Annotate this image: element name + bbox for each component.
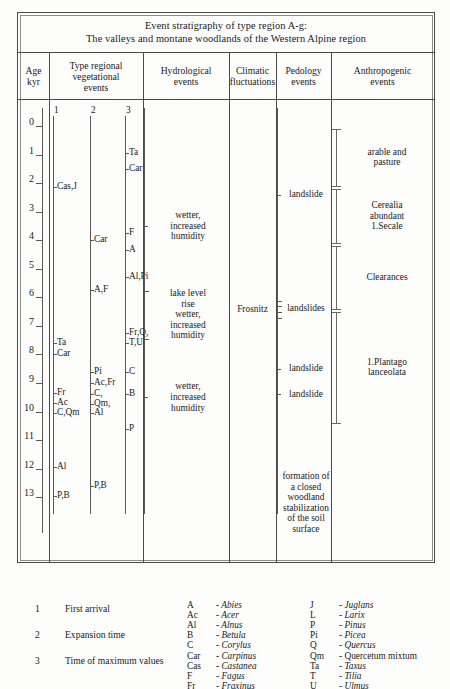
legend-abbrev-name-Q: - Quercus bbox=[339, 640, 376, 650]
vegetation-event-label: C bbox=[129, 367, 135, 377]
age-tick bbox=[36, 469, 42, 470]
column-header-vegetation-line-3: events bbox=[70, 82, 123, 93]
legend-abbrev-code-P: P bbox=[310, 620, 315, 630]
age-tick-label-1: 1 bbox=[18, 146, 34, 156]
age-tick-label-8: 8 bbox=[18, 345, 34, 355]
vegetation-event-label: B bbox=[129, 389, 135, 399]
legend: 1First arrival2Expansion time3Time of ma… bbox=[17, 600, 435, 686]
legend-abbrev-code-A: A bbox=[187, 600, 194, 610]
table-body: 012345678910111213123Cas,JTaCarFrAcC,QmA… bbox=[18, 100, 434, 562]
age-tick bbox=[36, 240, 42, 241]
column-header-anthropogenic-line-2: events bbox=[354, 76, 412, 87]
anthropogenic-event-label: Cerealiaabundant1.Secale bbox=[344, 200, 430, 232]
legend-rank-text-2: Expansion time bbox=[65, 629, 125, 640]
pedology-event-text-line: landslides bbox=[281, 303, 331, 314]
anthropogenic-event-text-line: lanceolata bbox=[344, 367, 430, 378]
age-tick-label-3: 3 bbox=[18, 203, 34, 213]
legend-abbrev-name-F: - Fagus bbox=[216, 671, 245, 681]
anthropogenic-span-cap bbox=[332, 186, 341, 187]
age-tick-label-4: 4 bbox=[18, 231, 34, 241]
legend-abbrev-name-Cas: - Castanea bbox=[216, 661, 257, 671]
legend-abbrev-name-Ac: - Acer bbox=[216, 610, 239, 620]
column-header-climatic: Climaticfluctuations bbox=[229, 53, 276, 99]
column-header-row: AgekyrType regionalvegetationaleventsHyd… bbox=[18, 53, 434, 100]
age-tick-label-0: 0 bbox=[18, 117, 34, 127]
column-header-age-line-2: kyr bbox=[26, 76, 42, 87]
vegetation-event-label: Ac,Fr bbox=[94, 378, 115, 388]
vegetation-event-label: T,U bbox=[129, 338, 143, 348]
vegetation-subcolumn-label-2: 2 bbox=[91, 106, 96, 115]
anthropogenic-event-text-line: Clearances bbox=[344, 272, 430, 283]
legend-rank-number-3: 3 bbox=[35, 655, 40, 666]
age-tick-label-5: 5 bbox=[18, 260, 34, 270]
hydrological-event-text-line: wetter, bbox=[149, 210, 227, 221]
vegetation-subaxis-2 bbox=[90, 116, 91, 514]
vegetation-event-label: Car bbox=[129, 164, 142, 174]
header-divider bbox=[49, 53, 50, 99]
title-line-1: Event stratigraphy of type region A-g: bbox=[145, 20, 307, 33]
legend-abbrev-code-U: U bbox=[310, 681, 317, 689]
anthropogenic-span-cap bbox=[332, 423, 341, 424]
age-tick bbox=[36, 269, 42, 270]
vegetation-event-label: C,Qm bbox=[57, 408, 79, 418]
age-tick bbox=[36, 326, 42, 327]
age-tick bbox=[36, 383, 42, 384]
vegetation-event-label: Ta bbox=[129, 148, 138, 158]
anthropogenic-event-text-line: 1.Secale bbox=[344, 221, 430, 232]
column-divider bbox=[331, 100, 332, 562]
legend-abbrev-code-Ta: Ta bbox=[310, 661, 319, 671]
hydrological-event-text-line: humidity bbox=[149, 403, 227, 414]
column-header-anthropogenic-line-1: Anthropogenic bbox=[354, 65, 412, 76]
column-header-pedology-line-2: events bbox=[285, 76, 321, 87]
climatic-event-label: Frosnitz bbox=[229, 304, 276, 315]
vegetation-event-label: A bbox=[129, 245, 136, 255]
pedology-event-text-line: landslide bbox=[281, 189, 331, 200]
anthropogenic-span-cap bbox=[332, 243, 341, 244]
header-divider bbox=[143, 53, 144, 99]
hydrological-event-label: wetter,increasedhumidity bbox=[149, 381, 227, 413]
age-axis-line bbox=[42, 108, 43, 533]
vegetation-subaxis-1 bbox=[53, 116, 54, 514]
legend-abbrev-code-Cas: Cas bbox=[187, 661, 201, 671]
legend-abbrev-name-P: - Pinus bbox=[339, 620, 366, 630]
vegetation-event-label: Car bbox=[94, 235, 107, 245]
legend-abbrev-name-Car: - Carpinus bbox=[216, 651, 256, 661]
pedology-event-text-line: of the soil bbox=[281, 513, 331, 524]
anthropogenic-event-text-line: pasture bbox=[344, 157, 430, 168]
vegetation-event-label: P bbox=[129, 424, 134, 434]
climatic-event-bracket bbox=[277, 301, 282, 319]
legend-abbrev-code-Car: Car bbox=[187, 651, 200, 661]
column-header-age: Agekyr bbox=[18, 53, 49, 99]
legend-rank-number-2: 2 bbox=[35, 629, 40, 640]
anthropogenic-span-bar bbox=[336, 129, 337, 186]
anthropogenic-event-text-line: arable and bbox=[344, 147, 430, 158]
column-divider bbox=[229, 100, 230, 562]
age-tick-label-6: 6 bbox=[18, 288, 34, 298]
legend-abbrev-code-J: J bbox=[310, 600, 314, 610]
pedology-event-label: landslide bbox=[281, 389, 331, 400]
title-line-2: The valleys and montane woodlands of the… bbox=[86, 33, 366, 46]
legend-abbrev-name-U: - Ulmus bbox=[339, 681, 369, 689]
hydrological-event-label: lake levelrisewetter,increasedhumidity bbox=[149, 288, 227, 341]
age-tick-label-7: 7 bbox=[18, 317, 34, 327]
column-header-climatic-line-2: fluctuations bbox=[230, 76, 275, 87]
column-header-anthropogenic: Anthropogenicevents bbox=[331, 53, 434, 99]
age-tick bbox=[36, 183, 42, 184]
vegetation-event-label: Pi bbox=[94, 367, 102, 377]
age-tick bbox=[36, 126, 42, 127]
pedology-event-text-line: stabilization bbox=[281, 503, 331, 514]
anthropogenic-span-cap bbox=[332, 309, 341, 310]
legend-abbrev-code-L: L bbox=[310, 610, 316, 620]
hydrological-event-text-line: increased bbox=[149, 320, 227, 331]
legend-abbrev-code-B: B bbox=[187, 630, 193, 640]
column-divider bbox=[49, 100, 50, 562]
hydrological-event-text-line: increased bbox=[149, 221, 227, 232]
vegetation-subcolumn-label-1: 1 bbox=[54, 106, 59, 115]
vegetation-event-label: F bbox=[129, 228, 134, 238]
header-divider bbox=[331, 53, 332, 99]
column-header-age-line-1: Age bbox=[26, 65, 42, 76]
hydrological-event-marker bbox=[144, 226, 148, 227]
pedology-event-label: landslide bbox=[281, 363, 331, 374]
column-header-hydrological-line-2: events bbox=[161, 76, 212, 87]
anthropogenic-span-cap bbox=[332, 246, 341, 247]
